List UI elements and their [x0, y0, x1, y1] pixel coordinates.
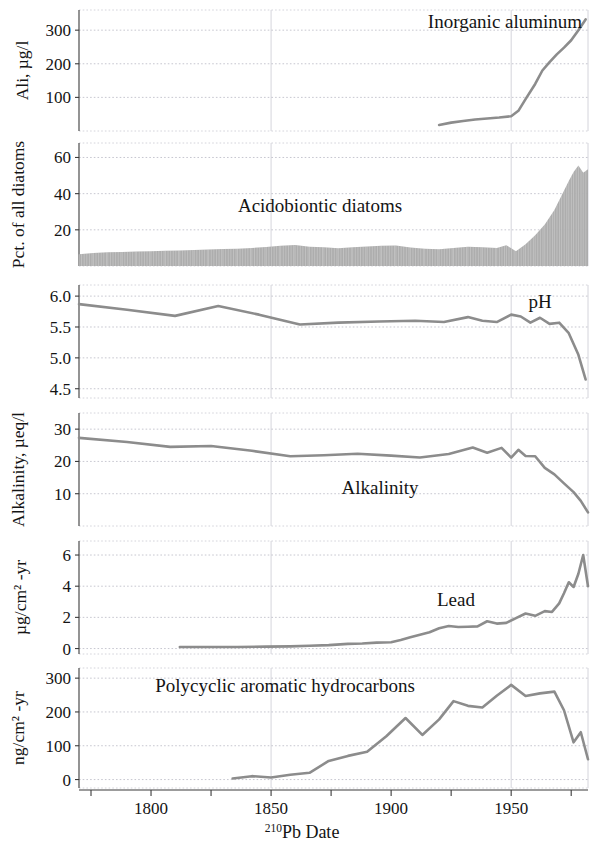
y-tick-label: 100 [46, 88, 72, 107]
y-tick-label: 300 [46, 669, 72, 688]
figure-canvas: 100200300Ali, µg/lInorganic aluminum2040… [0, 0, 604, 855]
panel-4: 102030Alkalinity, µeq/lAlkalinity [8, 412, 588, 527]
panel-6: 0100200300ng/cm² -yrPolycyclic aromatic … [8, 668, 588, 790]
panel-2: 204060Pct. of all diatomsAcidobiontic di… [8, 141, 588, 269]
panel-3: 4.55.05.56.0pH [50, 285, 588, 399]
y-axis-title-panel-5: µg/cm² -yr [10, 560, 30, 635]
series-label-panel-1: Inorganic aluminum [428, 11, 582, 32]
series-label-panel-5: Lead [437, 589, 475, 610]
series-label-panel-2: Acidobiontic diatoms [238, 195, 402, 216]
y-tick-label: 30 [54, 420, 71, 439]
y-tick-label: 20 [54, 452, 71, 471]
x-axis: 1800185019001950210Pb Date [79, 790, 588, 842]
x-tick-label: 1800 [134, 799, 168, 818]
y-tick-label: 20 [54, 221, 71, 240]
series-label-panel-4: Alkalinity [341, 477, 419, 498]
y-tick-label: 4.5 [50, 380, 71, 399]
y-tick-label: 300 [46, 21, 72, 40]
y-tick-label: 200 [46, 703, 72, 722]
y-tick-label: 2 [63, 608, 72, 627]
y-axis-title-panel-2: Pct. of all diatoms [8, 141, 28, 269]
y-tick-label: 6.0 [50, 287, 71, 306]
multi-panel-stratigraphic-figure: 100200300Ali, µg/lInorganic aluminum2040… [0, 0, 604, 855]
y-tick-label: 0 [63, 640, 72, 659]
x-axis-title-text: 210Pb Date [265, 822, 340, 842]
y-axis-title-panel-6: ng/cm² -yr [8, 691, 28, 765]
x-axis-title-superscript: 210 [265, 822, 283, 834]
panel-1: 100200300Ali, µg/lInorganic aluminum [12, 10, 588, 131]
x-tick-label: 1850 [254, 799, 288, 818]
x-axis-title-main: Pb Date [282, 822, 340, 842]
y-tick-label: 60 [54, 148, 71, 167]
y-tick-label: 40 [54, 185, 71, 204]
y-tick-label: 4 [63, 577, 72, 596]
line-series-panel-5 [180, 555, 588, 647]
y-tick-label: 10 [54, 485, 71, 504]
line-series-panel-3 [79, 304, 586, 379]
y-tick-label: 0 [63, 771, 72, 790]
y-tick-label: 6 [63, 546, 72, 565]
series-label-panel-6: Polycyclic aromatic hydrocarbons [155, 675, 415, 696]
y-tick-label: 100 [46, 737, 72, 756]
x-tick-label: 1950 [494, 799, 528, 818]
x-tick-label: 1900 [374, 799, 408, 818]
y-tick-label: 5.0 [50, 349, 71, 368]
y-tick-label: 5.5 [50, 318, 71, 337]
series-label-panel-3: pH [528, 291, 552, 312]
panel-5: 0246µg/cm² -yrLead [10, 541, 588, 659]
y-tick-label: 200 [46, 55, 72, 74]
line-series-panel-1 [439, 19, 585, 125]
line-series-panel-4 [79, 438, 588, 513]
y-axis-title-panel-1: Ali, µg/l [12, 41, 32, 101]
line-series-panel-6 [233, 685, 588, 779]
x-axis-title: 210Pb Date [265, 822, 340, 842]
y-axis-title-panel-4: Alkalinity, µeq/l [8, 412, 28, 527]
